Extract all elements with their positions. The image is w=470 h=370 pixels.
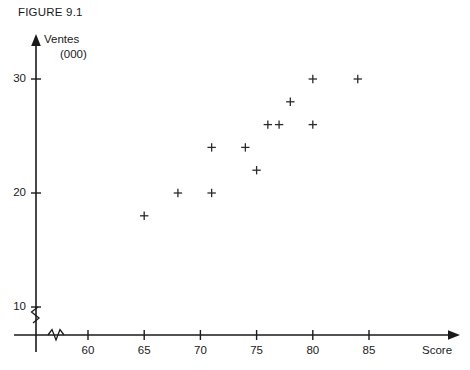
x-axis-tick-label: 70 [185, 344, 215, 356]
data-point-marker [309, 75, 317, 83]
data-point-marker [241, 143, 249, 151]
x-axis-tick-label: 60 [73, 344, 103, 356]
data-point-marker [174, 189, 182, 197]
x-axis-tick-label: 85 [354, 344, 384, 356]
data-point-marker [286, 98, 294, 106]
data-point-marker [207, 189, 215, 197]
data-point-marker [252, 166, 260, 174]
data-point-marker [275, 120, 283, 128]
data-point-marker [140, 212, 148, 220]
data-markers-group [140, 75, 362, 220]
y-axis-arrowhead [31, 34, 41, 46]
y-axis-tick-label: 30 [0, 72, 26, 84]
axis-group [14, 34, 460, 352]
data-point-marker [309, 120, 317, 128]
y-axis-tick-label: 20 [0, 186, 26, 198]
x-axis-tick-label: 75 [242, 344, 272, 356]
y-axis-break-icon [32, 307, 40, 323]
scatter-plot-svg [0, 0, 470, 370]
data-point-marker [264, 120, 272, 128]
x-axis-tick-label: 80 [298, 344, 328, 356]
figure-container: FIGURE 9.1 Ventes (000) Score 6065707580… [0, 0, 470, 370]
y-axis-tick-label: 10 [0, 300, 26, 312]
data-point-marker [354, 75, 362, 83]
x-axis-tick-label: 65 [129, 344, 159, 356]
x-axis-arrowhead [448, 330, 460, 340]
tick-marks-group [31, 79, 369, 340]
data-point-marker [207, 143, 215, 151]
